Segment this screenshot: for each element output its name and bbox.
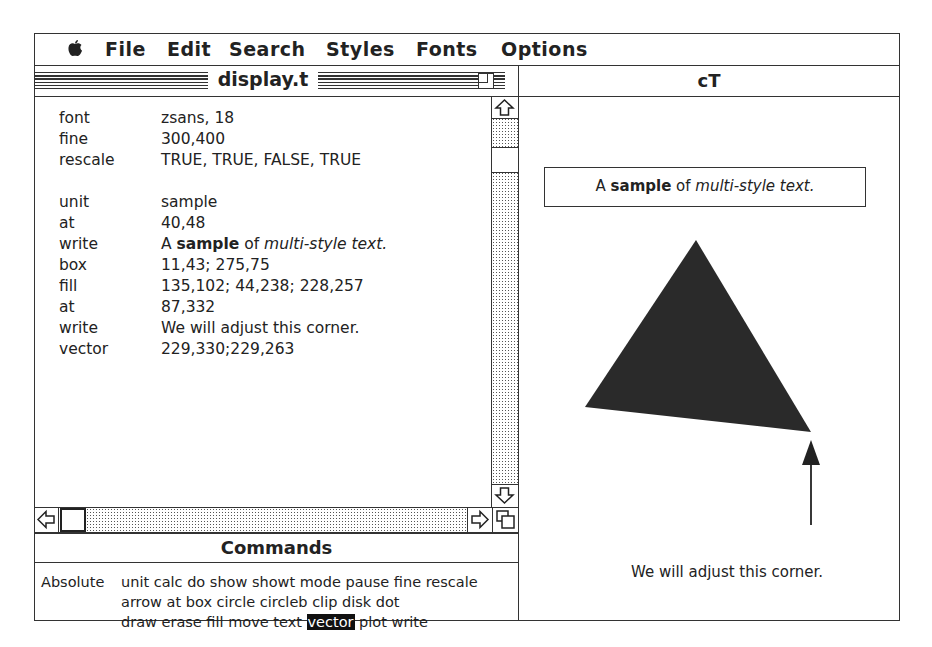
scroll-up-button[interactable] xyxy=(492,97,518,119)
output-window: cT A sample of multi-style text. We will… xyxy=(519,66,899,620)
scroll-down-button[interactable] xyxy=(492,484,518,507)
filled-triangle xyxy=(585,240,811,432)
menu-options[interactable]: Options xyxy=(501,38,588,60)
code-line: writeA sample of multi-style text. xyxy=(59,235,387,253)
command-list-line-2[interactable]: arrow at box circle circleb clip disk do… xyxy=(121,594,400,610)
code-line: vector229,330;229,263 xyxy=(59,340,294,358)
command-list-line-1[interactable]: unit calc do show showt mode pause fine … xyxy=(121,574,478,590)
screen-frame: File Edit Search Styles Fonts Options di… xyxy=(34,33,900,621)
code-line: box11,43; 275,75 xyxy=(59,256,270,274)
arrow-right-icon xyxy=(468,508,491,531)
arrow-head-icon xyxy=(802,440,820,465)
menu-fonts[interactable]: Fonts xyxy=(416,38,478,60)
grow-box[interactable] xyxy=(492,508,518,532)
editor-title-bar[interactable]: display.t xyxy=(35,66,518,97)
menu-styles[interactable]: Styles xyxy=(326,38,395,60)
arrow-left-icon xyxy=(35,508,58,531)
menu-file[interactable]: File xyxy=(105,38,146,60)
vertical-scrollbar[interactable] xyxy=(491,97,518,507)
code-line: writeWe will adjust this corner. xyxy=(59,319,360,337)
menu-edit[interactable]: Edit xyxy=(167,38,211,60)
code-line: fontzsans, 18 xyxy=(59,109,234,127)
zoom-box-icon[interactable] xyxy=(478,73,494,89)
arrow-down-icon xyxy=(492,485,517,506)
code-line: rescaleTRUE, TRUE, FALSE, TRUE xyxy=(59,151,361,169)
mode-absolute[interactable]: Absolute xyxy=(41,574,104,590)
resize-icon xyxy=(493,508,518,531)
commands-panel: Absolute unit calc do show showt mode pa… xyxy=(35,563,518,620)
scroll-right-button[interactable] xyxy=(467,508,492,532)
scroll-left-button[interactable] xyxy=(35,508,59,532)
arrow-up-icon xyxy=(492,97,517,118)
code-line: fine300,400 xyxy=(59,130,225,148)
code-line: at87,332 xyxy=(59,298,215,316)
editor-text-area[interactable]: fontzsans, 18 fine300,400 rescaleTRUE, T… xyxy=(35,97,491,507)
horizontal-scrollbar[interactable] xyxy=(35,507,518,534)
menu-search[interactable]: Search xyxy=(229,38,306,60)
graphics-canvas xyxy=(519,66,899,620)
code-line: fill135,102; 44,238; 228,257 xyxy=(59,277,364,295)
command-vector-selected[interactable]: vector xyxy=(307,614,355,630)
menu-bar: File Edit Search Styles Fonts Options xyxy=(35,34,899,66)
apple-icon[interactable] xyxy=(65,39,85,59)
command-list-line-3[interactable]: draw erase fill move text vector plot wr… xyxy=(121,614,428,630)
editor-title: display.t xyxy=(208,68,319,90)
vertical-scroll-thumb[interactable] xyxy=(492,147,518,173)
corner-label: We will adjust this corner. xyxy=(631,563,823,581)
code-line: unitsample xyxy=(59,193,217,211)
horizontal-scroll-thumb[interactable] xyxy=(60,508,86,532)
commands-title: Commands xyxy=(35,534,518,563)
code-line: at40,48 xyxy=(59,214,205,232)
editor-window: display.t fontzsans, 18 fine300,400 resc… xyxy=(35,66,519,620)
